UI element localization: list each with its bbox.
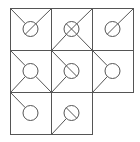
puzzle-cell[interactable] [11, 93, 52, 135]
node-circle-icon [105, 64, 120, 79]
puzzle-cell[interactable] [52, 51, 93, 93]
puzzle-cell[interactable] [52, 9, 93, 51]
puzzle-cell[interactable] [93, 51, 134, 93]
puzzle-board [0, 0, 140, 142]
puzzle-cell[interactable] [11, 9, 52, 51]
node-circle-icon [23, 64, 38, 79]
puzzle-cell[interactable] [11, 51, 52, 93]
puzzle-cell[interactable] [93, 9, 134, 51]
node-circle-icon [23, 106, 38, 121]
puzzle-cell[interactable] [52, 93, 93, 135]
